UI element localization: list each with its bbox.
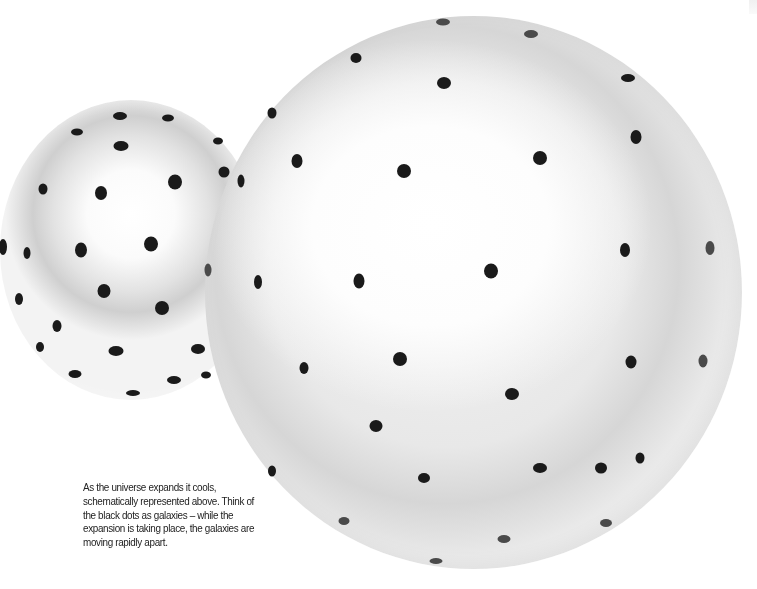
galaxy-dot	[144, 237, 158, 252]
galaxy-dot	[631, 130, 642, 144]
galaxy-dot	[505, 388, 519, 400]
galaxy-dot	[24, 247, 31, 259]
galaxy-dot	[75, 243, 87, 258]
galaxy-dot	[268, 108, 277, 119]
galaxy-dot	[600, 519, 612, 527]
corner-artifact	[749, 0, 757, 14]
galaxy-dot	[339, 517, 350, 525]
galaxy-dot	[201, 372, 211, 379]
caption-text: As the universe expands it cools, schema…	[83, 481, 255, 550]
galaxy-dot	[205, 264, 212, 277]
galaxy-dot	[498, 535, 511, 543]
galaxy-dot	[219, 167, 230, 178]
galaxy-dot	[69, 370, 82, 378]
galaxy-dot	[354, 274, 365, 289]
galaxy-dot	[113, 112, 127, 120]
galaxy-dot	[213, 138, 223, 145]
galaxy-dot	[167, 376, 181, 384]
galaxy-dot	[393, 352, 407, 366]
galaxy-dot	[109, 346, 124, 356]
galaxy-dot	[126, 390, 140, 396]
galaxy-dot	[699, 355, 708, 368]
galaxy-dot	[621, 74, 635, 82]
galaxy-dot	[71, 129, 83, 136]
galaxy-dot	[370, 420, 383, 432]
galaxy-dot	[238, 175, 245, 188]
galaxy-dot	[626, 356, 637, 369]
galaxy-dot	[351, 53, 362, 63]
galaxy-dot	[162, 115, 174, 122]
galaxy-dot	[533, 151, 547, 165]
galaxy-dot	[15, 293, 23, 305]
galaxy-dot	[114, 141, 129, 151]
galaxy-dot	[39, 184, 48, 195]
galaxy-dot	[155, 301, 169, 315]
galaxy-dot	[191, 344, 205, 354]
galaxy-dot	[636, 453, 645, 464]
large-sphere	[205, 16, 742, 569]
galaxy-dot	[437, 77, 451, 89]
galaxy-dot	[168, 175, 182, 190]
galaxy-dot	[300, 362, 309, 374]
galaxy-dot	[292, 154, 303, 168]
galaxy-dot	[524, 30, 538, 38]
galaxy-dot	[98, 284, 111, 298]
galaxy-dot	[706, 241, 715, 255]
galaxy-dot	[595, 463, 607, 474]
galaxy-dot	[268, 466, 276, 477]
galaxy-dot	[53, 320, 62, 332]
galaxy-dot	[430, 558, 443, 564]
galaxy-dot	[397, 164, 411, 178]
galaxy-dot	[95, 186, 107, 200]
galaxy-dot	[484, 264, 498, 279]
galaxy-dot	[436, 19, 450, 26]
galaxy-dot	[254, 275, 262, 289]
galaxy-dot	[36, 342, 44, 352]
galaxy-dot	[533, 463, 547, 473]
galaxy-dot	[418, 473, 430, 483]
galaxy-dot	[620, 243, 630, 257]
